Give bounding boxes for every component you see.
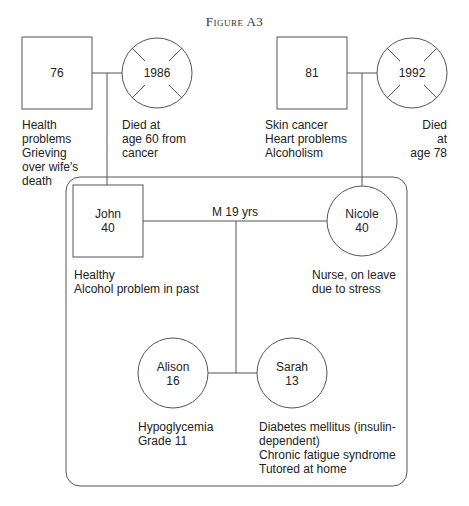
- nicole-name: Nicole: [327, 207, 397, 221]
- paternal-grandmother-death-year: 1986: [122, 66, 192, 80]
- alison-age: 16: [138, 374, 208, 388]
- alison-name: Alison: [138, 360, 208, 374]
- nicole-label: Nicole 40: [327, 207, 397, 235]
- alison-label: Alison 16: [138, 360, 208, 388]
- john-name: John: [73, 207, 143, 221]
- maternal-grandfather-age: 81: [277, 66, 347, 80]
- maternal-grandfather-notes: Skin cancer Heart problems Alcoholism: [265, 118, 347, 160]
- nicole-age: 40: [327, 221, 397, 235]
- sarah-notes: Diabetes mellitus (insulin- dependent) C…: [259, 420, 396, 476]
- sarah-name: Sarah: [257, 360, 327, 374]
- maternal-grandmother-notes: Died at age 78: [410, 118, 447, 160]
- maternal-grandmother-death-year: 1992: [377, 66, 447, 80]
- john-label: John 40: [73, 207, 143, 235]
- john-notes: Healthy Alcohol problem in past: [74, 268, 199, 296]
- sarah-age: 13: [257, 374, 327, 388]
- paternal-grandmother-notes: Died at age 60 from cancer: [122, 118, 186, 160]
- paternal-grandfather-notes: Health problems Grieving over wife's dea…: [22, 118, 78, 188]
- john-age: 40: [73, 221, 143, 235]
- marriage-duration-label: M 19 yrs: [200, 205, 270, 219]
- paternal-grandfather-age: 76: [22, 66, 92, 80]
- sarah-label: Sarah 13: [257, 360, 327, 388]
- alison-notes: Hypoglycemia Grade 11: [138, 420, 213, 448]
- nicole-notes: Nurse, on leave due to stress: [312, 268, 396, 296]
